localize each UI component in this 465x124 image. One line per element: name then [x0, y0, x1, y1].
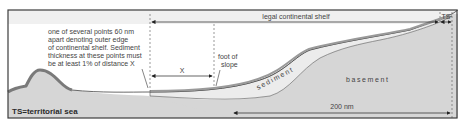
svg-text:thickness at these points must: thickness at these points must: [48, 52, 142, 60]
x-label: X: [180, 67, 185, 74]
outer-edge-note: one of several points 60 nm apart denoti…: [48, 28, 142, 67]
territorial-sea-legend: TS=territorial sea: [12, 107, 78, 116]
svg-text:one of several points 60 nm: one of several points 60 nm: [48, 28, 134, 36]
svg-text:of continental shelf. Sediment: of continental shelf. Sediment: [48, 44, 140, 51]
svg-text:apart denoting outer edge: apart denoting outer edge: [48, 36, 128, 44]
continental-shelf-diagram: legal continental shelf TS one of severa…: [0, 0, 465, 124]
ts-label: TS: [442, 13, 451, 20]
svg-text:be at least 1% of distance X: be at least 1% of distance X: [48, 60, 135, 67]
foot-of-slope-label-line1: foot of: [218, 53, 238, 60]
basement-label: basement: [346, 76, 390, 83]
200nm-label: 200 nm: [330, 103, 354, 110]
legal-shelf-label: legal continental shelf: [262, 13, 329, 21]
foot-of-slope-label-line2: slope: [221, 61, 238, 69]
